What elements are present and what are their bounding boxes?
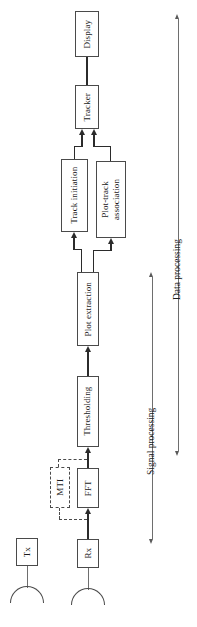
data-processing-arrow-shaft — [178, 19, 179, 451]
link-fft-to-thresholding — [87, 453, 88, 468]
block-tracker: Tracker — [75, 85, 99, 129]
rx-antenna-stem — [88, 568, 89, 590]
signal-processing-label: Signal processing — [146, 408, 156, 475]
tx-antenna-icon — [10, 586, 44, 603]
block-plot-extraction-label: Plot extraction — [83, 282, 94, 336]
rx-antenna-icon — [71, 588, 105, 605]
plot-track-line-2: association — [111, 179, 121, 220]
signal-processing-arrow-head-bottom — [149, 539, 153, 544]
link-split-left-down — [81, 249, 82, 272]
block-track-initiation-label: Track initiation — [69, 167, 80, 224]
link-merge-left-down — [74, 146, 75, 159]
link-rx-to-fft — [87, 514, 88, 539]
radar-block-diagram: Data processing Signal processing Displa… — [0, 0, 197, 627]
block-fft: FFT — [77, 468, 99, 508]
block-track-initiation: Track initiation — [61, 159, 88, 232]
tx-antenna-stem — [27, 566, 28, 588]
block-display-label: Display — [82, 20, 93, 49]
link-tracker-to-display — [86, 57, 87, 85]
block-tx: Tx — [16, 538, 38, 566]
block-plot-extraction: Plot extraction — [77, 272, 99, 346]
block-display: Display — [75, 11, 99, 57]
data-processing-label: Data processing — [172, 239, 182, 300]
block-fft-label: FFT — [83, 480, 94, 496]
link-split-right-down — [93, 250, 94, 272]
mti-bypass-left-bottom-dashed — [59, 508, 60, 519]
link-merge-right-horizontal — [93, 146, 111, 147]
data-processing-arrow-head-bottom — [175, 451, 179, 456]
block-thresholding-label: Thresholding — [83, 387, 94, 436]
link-thresholding-to-plot-extraction — [87, 352, 88, 376]
block-tracker-label: Tracker — [82, 93, 93, 121]
block-tx-label: Tx — [22, 547, 33, 557]
mti-bypass-bottom-dashed — [59, 519, 87, 520]
block-mti: MTI — [50, 467, 70, 508]
mti-bypass-left-top-dashed — [58, 459, 59, 467]
block-thresholding: Thresholding — [77, 376, 99, 447]
link-split-left-stub — [73, 238, 74, 249]
link-merge-right-down — [110, 146, 111, 161]
block-plot-track-association-label: Plot-trackassociation — [101, 179, 122, 220]
mti-bypass-top-dashed — [58, 459, 87, 460]
block-rx: Rx — [77, 539, 99, 568]
block-rx-label: Rx — [83, 548, 94, 559]
block-mti-label: MTI — [55, 479, 66, 496]
plot-track-line-1: Plot-track — [101, 181, 111, 218]
link-split-right-horizontal — [93, 250, 111, 251]
block-plot-track-association: Plot-trackassociation — [96, 161, 126, 238]
